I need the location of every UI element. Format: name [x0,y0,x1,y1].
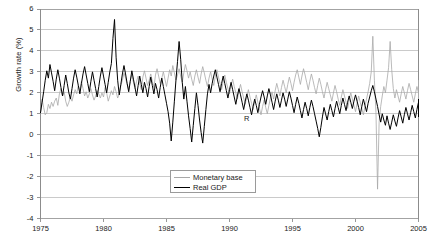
chart-figure: Growth rate (%) 6543210-1-2-3-4 19751980… [0,0,432,246]
annotation-label: R [244,115,249,123]
plot-canvas [0,0,432,246]
legend-item-real-gdp: Real GDP [174,183,252,192]
legend-label-real-gdp: Real GDP [193,183,227,192]
legend-item-monetary-base: Monetary base [174,173,252,182]
legend-swatch-monetary-base [174,177,190,178]
legend-label-monetary-base: Monetary base [193,173,243,182]
chart-legend: Monetary base Real GDP [170,170,256,193]
legend-swatch-real-gdp [174,187,190,189]
